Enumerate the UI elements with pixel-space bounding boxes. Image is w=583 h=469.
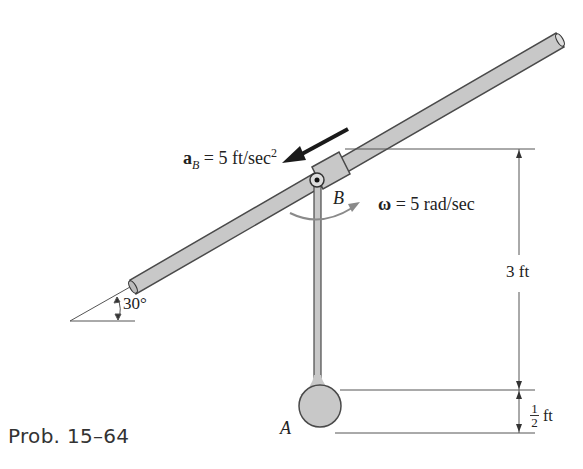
mechanism-diagram	[0, 0, 583, 469]
ball-a	[299, 385, 341, 427]
point-b-label: B	[333, 188, 344, 209]
omega-label: ω = 5 rad/sec	[378, 194, 475, 215]
dim-rod-label: 3 ft	[506, 262, 529, 282]
dim-ball-numerator: 1	[531, 402, 538, 415]
accel-value: = 5 ft/sec	[199, 148, 271, 168]
dim-ball-denominator: 2	[531, 416, 538, 429]
dim-ball-unit: ft	[543, 407, 553, 425]
accel-label: aB = 5 ft/sec2	[183, 146, 277, 173]
problem-caption: Prob. 15–64	[8, 424, 129, 448]
angle-label: 30°	[123, 294, 147, 314]
dim-ball-label: 1 2 ft	[530, 402, 553, 429]
point-a-label: A	[280, 418, 291, 439]
dimension-lines	[335, 149, 535, 433]
omega-value: = 5 rad/sec	[391, 194, 475, 214]
omega-symbol: ω	[378, 194, 391, 214]
accel-symbol: a	[183, 148, 192, 168]
omega-arrow	[290, 202, 360, 219]
accel-exponent: 2	[271, 146, 277, 160]
